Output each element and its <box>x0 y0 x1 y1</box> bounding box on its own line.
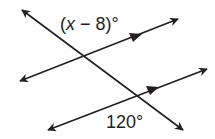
parallel-mark-icon <box>146 86 159 95</box>
diagram-canvas: (x − 8)° 120° <box>0 0 215 139</box>
bottom-angle-label: 120° <box>106 112 143 132</box>
top-angle-label: (x − 8)° <box>60 14 119 34</box>
diagram: (x − 8)° 120° <box>0 0 215 139</box>
